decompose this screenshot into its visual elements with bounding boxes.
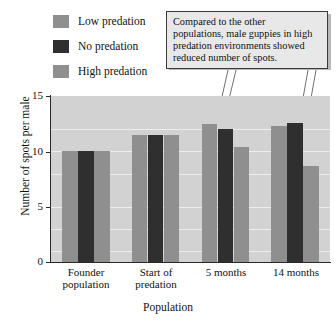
bar-low-predation-14-months [271, 126, 287, 262]
chart-legend: Low predation No predation High predatio… [53, 13, 147, 88]
bar-group [191, 96, 261, 262]
y-tick-5 [46, 207, 50, 208]
x-axis-line [50, 262, 331, 263]
bar-group [51, 96, 121, 262]
bar-no-predation-5-months [218, 129, 234, 262]
legend-label-high-predation: High predation [78, 65, 147, 78]
x-category-label-founder-population: Founder population [51, 266, 121, 291]
y-tick-label-0: 0 [19, 255, 43, 267]
legend-swatch-low-predation [53, 15, 69, 28]
legend-swatch-no-predation [53, 40, 69, 53]
bar-low-predation-founder-population [62, 151, 78, 262]
bar-high-predation-start-of-predation [164, 135, 180, 262]
bar-high-predation-founder-population [94, 151, 110, 262]
y-tick-10 [46, 152, 50, 153]
bar-high-predation-14-months [303, 166, 319, 262]
bar-high-predation-5-months [234, 147, 250, 262]
figure: Low predation No predation High predatio… [0, 0, 336, 326]
bar-group [121, 96, 191, 262]
bar-low-predation-start-of-predation [132, 135, 148, 262]
y-tick-15 [46, 96, 50, 97]
x-category-line: Start of [121, 266, 191, 278]
annotation-callout: Compared to the other populations, male … [166, 11, 328, 69]
bar-no-predation-start-of-predation [148, 135, 164, 262]
x-category-label-start-of-predation: Start of predation [121, 266, 191, 291]
bar-no-predation-founder-population [78, 151, 94, 262]
x-axis-title: Population [0, 301, 336, 313]
y-axis-title: Number of spots per male [19, 81, 31, 231]
bar-low-predation-5-months [202, 124, 218, 262]
x-category-line: Founder [51, 266, 121, 278]
plot-area [51, 96, 330, 262]
annotation-line-2: populations, male guppies in high [173, 28, 322, 40]
bar-no-predation-14-months [287, 123, 303, 262]
x-category-line: predation [121, 278, 191, 290]
legend-label-no-predation: No predation [78, 40, 138, 53]
legend-item-low-predation: Low predation [53, 13, 147, 30]
y-axis-line [50, 95, 51, 263]
x-category-line: population [51, 278, 121, 290]
annotation-line-4: reduced number of spots. [173, 52, 322, 64]
legend-item-no-predation: No predation [53, 38, 147, 55]
bar-container [51, 96, 330, 262]
x-category-line: 5 months [191, 266, 261, 278]
annotation-line-3: predation environments showed [173, 40, 322, 52]
bar-group [260, 96, 330, 262]
x-category-line: 14 months [261, 266, 331, 278]
x-category-label-14-months: 14 months [261, 266, 331, 278]
legend-swatch-high-predation [53, 65, 69, 78]
x-category-label-5-months: 5 months [191, 266, 261, 278]
legend-item-high-predation: High predation [53, 63, 147, 80]
annotation-line-1: Compared to the other [173, 16, 322, 28]
legend-label-low-predation: Low predation [78, 15, 145, 28]
y-tick-0 [46, 262, 50, 263]
